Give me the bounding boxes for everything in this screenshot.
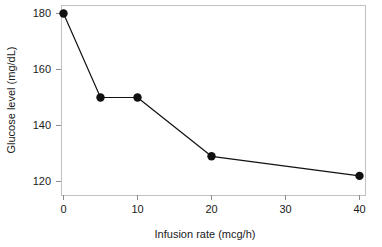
x-tick-label-10: 10 [131, 203, 143, 215]
series-markers-glucose [59, 9, 363, 180]
chart-figure: 180 160 140 120 0 10 20 30 40 Infusion r… [0, 0, 382, 247]
data-point [59, 9, 67, 17]
x-tick-label-30: 30 [279, 203, 291, 215]
data-point [207, 152, 215, 160]
y-axis-title: Glucose level (mg/dL) [5, 47, 17, 154]
x-tick-label-20: 20 [205, 203, 217, 215]
y-tick-label-180: 180 [33, 7, 51, 19]
x-tick-label-0: 0 [60, 203, 66, 215]
series-line-glucose [64, 14, 360, 176]
x-axis-title: Infusion rate (mcg/h) [155, 228, 256, 240]
y-axis-tick-labels: 180 160 140 120 [33, 7, 51, 187]
x-tick-label-40: 40 [353, 203, 365, 215]
data-point [96, 93, 104, 101]
plot-frame [62, 6, 366, 196]
y-tick-label-140: 140 [33, 119, 51, 131]
line-chart: 180 160 140 120 0 10 20 30 40 Infusion r… [0, 0, 382, 247]
y-axis-ticks [56, 14, 61, 182]
y-tick-label-120: 120 [33, 175, 51, 187]
data-point [133, 93, 141, 101]
x-axis-ticks [64, 195, 360, 200]
data-point [355, 172, 363, 180]
y-tick-label-160: 160 [33, 63, 51, 75]
x-axis-tick-labels: 0 10 20 30 40 [60, 203, 365, 215]
